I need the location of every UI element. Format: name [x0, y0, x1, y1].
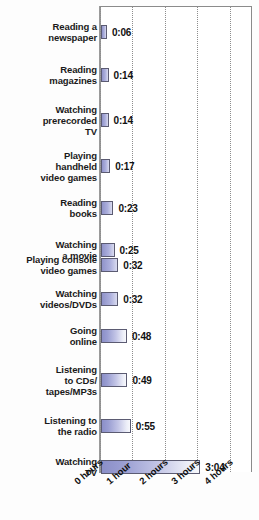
- bar: [101, 159, 110, 173]
- bar: [101, 113, 109, 127]
- category-label: Reading anewspaper: [0, 21, 97, 43]
- bar-value-label: 0:14: [114, 70, 133, 81]
- bar: [101, 419, 131, 433]
- bar-chart: Reading anewspaper0:06Readingmagazines0:…: [0, 0, 259, 520]
- category-label: Playinghandheldvideo games: [0, 150, 97, 183]
- gridline-3-hours: [197, 6, 198, 472]
- category-label: Listening tothe radio: [0, 415, 97, 437]
- bar-value-label: 0:25: [120, 245, 139, 256]
- bar-value-label: 0:48: [132, 331, 151, 342]
- category-label: Watchingvideos/DVDs: [0, 288, 97, 310]
- gridline-2-hours: [165, 6, 166, 472]
- bar: [101, 201, 113, 215]
- bar: [101, 258, 118, 272]
- bar: [101, 68, 109, 82]
- bar-value-label: 0:17: [115, 161, 134, 172]
- gridline-4-hours: [230, 6, 231, 472]
- bar: [101, 329, 127, 343]
- bar: [101, 292, 118, 306]
- category-label: Readingmagazines: [0, 64, 97, 86]
- category-label: Playing consolevideo games: [0, 254, 97, 276]
- category-label: Readingbooks: [0, 197, 97, 219]
- bar-value-label: 0:32: [123, 294, 142, 305]
- bar: [101, 373, 127, 387]
- category-label: WatchingprerecordedTV: [0, 104, 97, 137]
- bar-value-label: 0:14: [114, 115, 133, 126]
- bar: [101, 243, 115, 257]
- bar-value-label: 0:06: [112, 27, 131, 38]
- bar-value-label: 0:23: [118, 203, 137, 214]
- category-label: Listeningto CDs/tapes/MP3s: [0, 364, 97, 397]
- bar-value-label: 0:49: [132, 375, 151, 386]
- bar-value-label: 0:32: [123, 260, 142, 271]
- category-label: Goingonline: [0, 325, 97, 347]
- bar-value-label: 0:55: [136, 421, 155, 432]
- bar: [101, 25, 107, 39]
